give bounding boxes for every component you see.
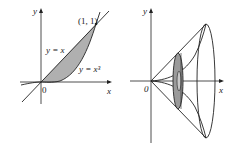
- x-axis-label: x: [106, 86, 111, 96]
- label-y-equals-x-cubed: y = x³: [78, 64, 101, 74]
- x-axis-arrow-icon: [107, 80, 112, 84]
- y-axis-arrow-icon: [39, 8, 43, 13]
- y-axis-label: y: [32, 6, 37, 16]
- label-y-equals-x: y = x: [45, 45, 65, 55]
- origin-label: 0: [42, 85, 47, 95]
- point-label: (1, 1): [78, 16, 98, 26]
- x-axis-arrow-icon: [219, 79, 224, 83]
- x-axis-label: x: [218, 85, 223, 95]
- washer-inner: [177, 71, 181, 91]
- solid-figure: y x 0: [130, 6, 224, 143]
- origin-label: 0: [144, 84, 149, 94]
- region-figure: y x 0 (1, 1) y = x y = x³: [20, 6, 112, 104]
- y-axis-arrow-icon: [149, 8, 153, 13]
- y-axis-label: y: [142, 6, 147, 16]
